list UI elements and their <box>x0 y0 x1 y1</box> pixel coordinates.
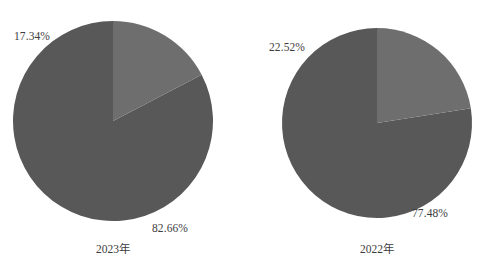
pie-chart-2023: 17.34% 82.66% 2023年 <box>0 0 245 269</box>
pie-chart-figure: 17.34% 82.66% 2023年 22.52% 77.48% 2022年 <box>0 0 490 269</box>
pie-2022-minor-slice-label: 22.52% <box>269 41 305 54</box>
pie-2023-major-slice-label: 82.66% <box>152 222 188 235</box>
pie-2023-minor-slice-label: 17.34% <box>14 30 50 43</box>
pie-slice <box>377 28 471 123</box>
pie-2023-caption: 2023年 <box>63 243 163 256</box>
pie-2022-major-slice-label: 77.48% <box>412 207 448 220</box>
pie-2022-caption: 2022年 <box>327 243 427 256</box>
